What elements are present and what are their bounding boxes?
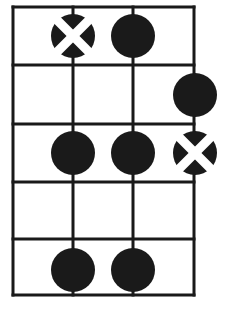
string-lines-group xyxy=(13,6,194,297)
dot-circle xyxy=(51,248,95,292)
dot-circle xyxy=(111,131,155,175)
fretboard-diagram xyxy=(0,0,228,313)
fret-lines-group xyxy=(12,7,196,295)
finger-dot xyxy=(173,73,217,117)
dot-circle xyxy=(111,14,155,58)
finger-dot xyxy=(51,248,95,292)
finger-dot-cross-marker xyxy=(173,131,217,175)
finger-dot-cross-marker xyxy=(51,14,95,58)
dot-circle xyxy=(111,248,155,292)
dot-circle xyxy=(173,73,217,117)
dot-circle xyxy=(51,131,95,175)
finger-dot xyxy=(111,248,155,292)
finger-dot xyxy=(111,131,155,175)
chord-diagram xyxy=(0,0,228,313)
finger-dot xyxy=(51,131,95,175)
finger-dot xyxy=(111,14,155,58)
finger-dots-group xyxy=(51,14,217,292)
